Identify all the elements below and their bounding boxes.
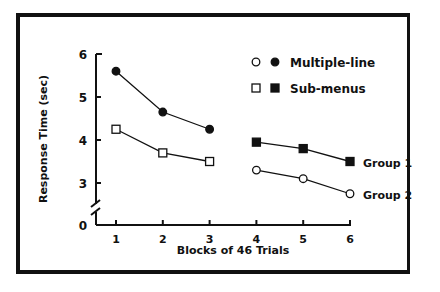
filled-circle-marker bbox=[206, 125, 214, 133]
y-tick-label: 5 bbox=[79, 91, 87, 105]
filled-square-marker bbox=[299, 145, 307, 153]
filled-circle-marker bbox=[112, 67, 120, 75]
open-circle-marker bbox=[346, 190, 354, 198]
axes: 03456123456 bbox=[79, 48, 354, 246]
filled-circle-marker bbox=[159, 108, 167, 116]
y-tick-label: 4 bbox=[79, 134, 87, 148]
open-square-marker bbox=[112, 125, 120, 133]
open-square-marker bbox=[206, 158, 214, 166]
series-line bbox=[253, 166, 354, 197]
filled-circle-marker bbox=[271, 58, 279, 66]
legend-label: Sub-menus bbox=[290, 82, 366, 96]
open-circle-marker bbox=[253, 166, 261, 174]
series-line bbox=[112, 125, 214, 165]
annotation-group-2: Group 2 bbox=[363, 189, 412, 202]
open-circle-marker bbox=[252, 58, 260, 66]
x-axis-label: Blocks of 46 Trials bbox=[177, 244, 290, 257]
legend: Multiple-lineSub-menus bbox=[252, 56, 375, 96]
line-chart: 03456123456 Multiple-lineSub-menus Block… bbox=[0, 0, 440, 292]
open-circle-marker bbox=[299, 175, 307, 183]
x-tick-label: 2 bbox=[159, 233, 167, 246]
x-tick-label: 5 bbox=[299, 233, 307, 246]
open-square-marker bbox=[159, 149, 167, 157]
filled-square-marker bbox=[252, 138, 260, 146]
y-tick-label: 0 bbox=[79, 219, 87, 233]
y-tick-label: 3 bbox=[79, 177, 87, 191]
x-tick-label: 1 bbox=[112, 233, 120, 246]
y-axis-label: Response Time (sec) bbox=[37, 75, 50, 203]
x-tick-label: 6 bbox=[346, 233, 354, 246]
series-line bbox=[252, 138, 354, 165]
filled-square-marker bbox=[271, 84, 279, 92]
open-square-marker bbox=[252, 84, 260, 92]
series-line bbox=[112, 67, 213, 133]
series-path bbox=[116, 71, 210, 129]
y-tick-label: 6 bbox=[79, 48, 87, 62]
filled-square-marker bbox=[346, 158, 354, 166]
annotation-group-1: Group 1 bbox=[363, 157, 412, 170]
legend-label: Multiple-line bbox=[290, 56, 375, 70]
